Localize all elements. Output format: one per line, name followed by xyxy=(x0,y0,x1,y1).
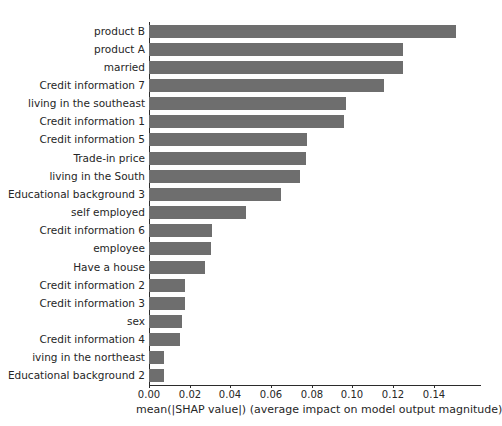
bar-row xyxy=(149,206,246,219)
bar-row xyxy=(149,333,180,346)
bar-row xyxy=(149,43,403,56)
y-axis-tick-label: self employed xyxy=(5,206,145,219)
x-axis-tick-mark xyxy=(190,385,191,388)
x-axis-tick-label: 0.14 xyxy=(423,389,445,400)
bar xyxy=(149,25,456,38)
x-axis-tick-label: 0.10 xyxy=(341,389,363,400)
x-axis-tick-label: 0.12 xyxy=(382,389,404,400)
x-axis-tick-mark xyxy=(312,385,313,388)
bar xyxy=(149,188,281,201)
x-axis-tick-mark xyxy=(434,385,435,388)
y-axis-tick-label: product A xyxy=(5,43,145,56)
x-axis-title: mean(|SHAP value|) (average impact on mo… xyxy=(0,403,485,416)
bar xyxy=(149,43,403,56)
bar xyxy=(149,224,212,237)
bar-row xyxy=(149,315,182,328)
bar xyxy=(149,369,164,382)
bar xyxy=(149,133,307,146)
bar xyxy=(149,297,185,310)
x-axis-tick-label: 0.00 xyxy=(138,389,160,400)
bar xyxy=(149,115,344,128)
bar xyxy=(149,97,346,110)
bar-row xyxy=(149,25,456,38)
y-axis-tick-labels: product Bproduct AmarriedCredit informat… xyxy=(2,22,145,385)
x-axis-tick-mark xyxy=(352,385,353,388)
x-axis-tick-mark xyxy=(393,385,394,388)
bar-row xyxy=(149,261,205,274)
y-axis-tick-label: Credit information 4 xyxy=(5,333,145,346)
y-axis-tick-label: living in the South xyxy=(5,170,145,183)
bar xyxy=(149,152,306,165)
x-axis-tick-label: 0.06 xyxy=(260,389,282,400)
bar-row xyxy=(149,79,384,92)
bar xyxy=(149,315,182,328)
y-axis-tick-label: Credit information 5 xyxy=(5,133,145,146)
bar-row xyxy=(149,188,281,201)
x-axis-tick-mark xyxy=(230,385,231,388)
y-axis-tick-label: Trade-in price xyxy=(5,152,145,165)
bar xyxy=(149,206,246,219)
bar-row xyxy=(149,369,164,382)
bar xyxy=(149,279,185,292)
bar-row xyxy=(149,115,344,128)
x-axis-tick-label: 0.08 xyxy=(301,389,323,400)
bar xyxy=(149,61,403,74)
bar xyxy=(149,351,164,364)
y-axis-tick-label: Credit information 7 xyxy=(5,79,145,92)
y-axis-tick-label: Credit information 2 xyxy=(5,279,145,292)
x-axis-tick-mark xyxy=(271,385,272,388)
bar-row xyxy=(149,224,212,237)
y-axis-tick-label: Educational background 3 xyxy=(5,188,145,201)
plot-area xyxy=(149,22,481,385)
bar-row xyxy=(149,170,300,183)
y-axis-tick-label: employee xyxy=(5,242,145,255)
x-axis-title-text: mean(|SHAP value|) (average impact on mo… xyxy=(0,403,502,416)
bar-row xyxy=(149,152,306,165)
bar xyxy=(149,261,205,274)
y-axis-tick-label: married xyxy=(5,61,145,74)
x-axis-tick-mark xyxy=(149,385,150,388)
bar-row xyxy=(149,61,403,74)
y-axis-tick-label: Educational background 2 xyxy=(5,369,145,382)
bar-row xyxy=(149,351,164,364)
bar-row xyxy=(149,279,185,292)
y-axis-tick-label: Have a house xyxy=(5,261,145,274)
bar xyxy=(149,333,180,346)
y-axis-tick-label: product B xyxy=(5,25,145,38)
bar xyxy=(149,170,300,183)
y-axis-tick-label: Credit information 1 xyxy=(5,115,145,128)
bar-row xyxy=(149,242,211,255)
bar xyxy=(149,79,384,92)
bar xyxy=(149,242,211,255)
bar-row xyxy=(149,297,185,310)
y-axis-tick-label: sex xyxy=(5,315,145,328)
y-axis-tick-label: living in the southeast xyxy=(5,97,145,110)
bar-row xyxy=(149,133,307,146)
x-axis-tick-label: 0.02 xyxy=(179,389,201,400)
y-axis-spine xyxy=(149,22,150,385)
x-axis-tick-label: 0.04 xyxy=(219,389,241,400)
y-axis-tick-label: Credit information 3 xyxy=(5,297,145,310)
bar-row xyxy=(149,97,346,110)
y-axis-tick-label: Credit information 6 xyxy=(5,224,145,237)
y-axis-tick-label: iving in the northeast xyxy=(5,351,145,364)
